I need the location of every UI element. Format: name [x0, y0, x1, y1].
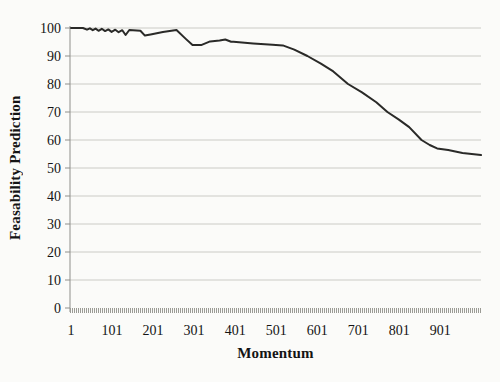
- x-tick-label: 101: [102, 323, 123, 338]
- chart-svg: 0102030405060708090100110120130140150160…: [0, 0, 500, 382]
- x-tick-label: 301: [184, 323, 205, 338]
- y-axis-title: Feasability Prediction: [4, 28, 26, 308]
- y-tick-label: 40: [47, 189, 61, 204]
- x-tick-label: 1: [68, 323, 75, 338]
- y-tick-label: 70: [47, 105, 61, 120]
- y-tick-label: 80: [47, 77, 61, 92]
- y-tick-label: 0: [54, 301, 61, 316]
- x-tick-label: 901: [430, 323, 451, 338]
- chart-figure: 0102030405060708090100110120130140150160…: [0, 0, 500, 382]
- x-axis-title: Momentum: [70, 345, 481, 362]
- x-tick-label: 801: [389, 323, 410, 338]
- x-tick-label: 201: [143, 323, 164, 338]
- x-tick-label: 701: [348, 323, 369, 338]
- y-tick-label: 10: [47, 273, 61, 288]
- y-tick-label: 30: [47, 217, 61, 232]
- y-tick-label: 90: [47, 49, 61, 64]
- data-line: [71, 28, 481, 155]
- y-tick-label: 50: [47, 161, 61, 176]
- x-tick-label: 401: [225, 323, 246, 338]
- x-tick-label: 601: [307, 323, 328, 338]
- y-tick-label: 100: [40, 21, 61, 36]
- y-tick-label: 20: [47, 245, 61, 260]
- x-tick-label: 501: [266, 323, 287, 338]
- y-tick-label: 60: [47, 133, 61, 148]
